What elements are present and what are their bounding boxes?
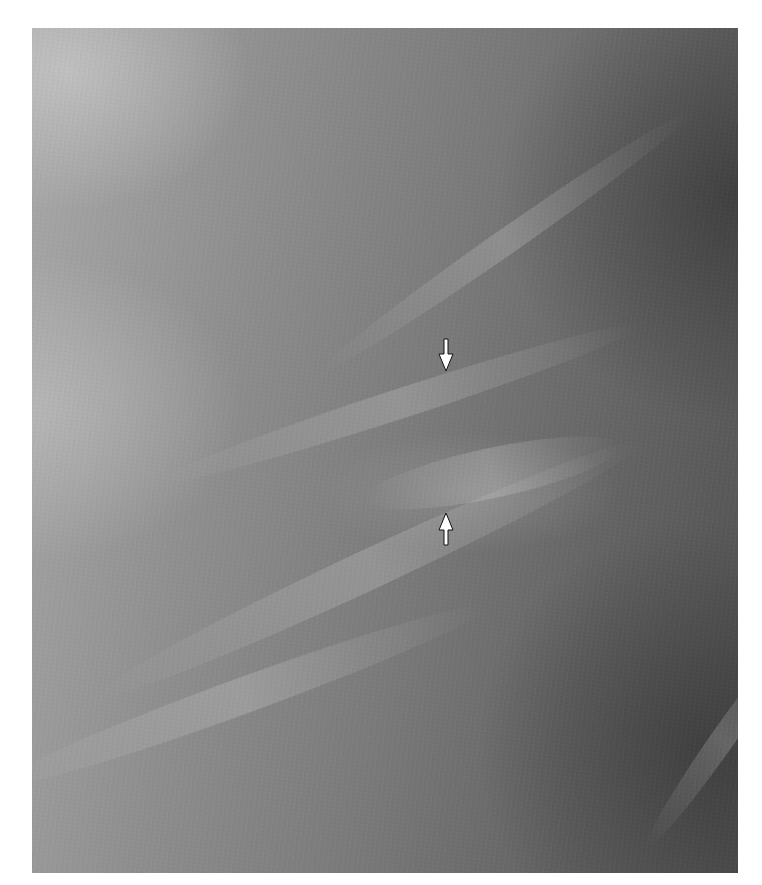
film-grain bbox=[32, 28, 738, 873]
arrow-up-icon bbox=[438, 512, 454, 546]
arrow-down-icon bbox=[438, 338, 454, 372]
mammogram-image bbox=[32, 28, 738, 873]
